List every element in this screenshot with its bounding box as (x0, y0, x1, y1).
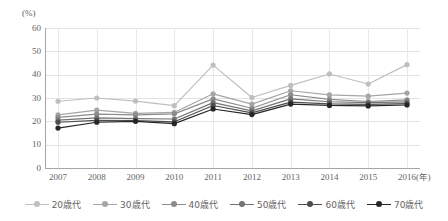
data-point (55, 99, 60, 104)
data-point (249, 112, 254, 117)
legend-item-70歳代[interactable]: 70歳代 (367, 198, 423, 211)
data-point (249, 95, 254, 100)
line-chart: (%) 6050403020100 2007200820092010201120… (0, 0, 448, 221)
legend-item-60歳代[interactable]: 60歳代 (298, 198, 354, 211)
legend-item-label: 50歳代 (257, 198, 286, 211)
legend-marker-icon (367, 200, 391, 209)
series-line (58, 104, 407, 128)
data-point (133, 119, 138, 124)
legend-item-30歳代[interactable]: 30歳代 (93, 198, 149, 211)
legend-marker-icon (298, 200, 322, 209)
data-point (366, 81, 371, 86)
chart-legend: 20歳代30歳代40歳代50歳代60歳代70歳代 (0, 193, 448, 215)
legend-item-label: 60歳代 (325, 198, 354, 211)
legend-item-20歳代[interactable]: 20歳代 (25, 198, 81, 211)
data-point (55, 120, 60, 125)
legend-item-label: 70歳代 (394, 198, 423, 211)
legend-marker-icon (25, 200, 49, 209)
data-point (327, 71, 332, 76)
series-layer (0, 0, 448, 221)
legend-item-label: 30歳代 (120, 198, 149, 211)
data-point (288, 83, 293, 88)
data-point (55, 126, 60, 131)
legend-item-label: 20歳代 (52, 198, 81, 211)
data-point (327, 103, 332, 108)
legend-item-label: 40歳代 (189, 198, 218, 211)
data-point (327, 92, 332, 97)
legend-marker-icon (162, 200, 186, 209)
data-point (94, 120, 99, 125)
data-point (366, 103, 371, 108)
data-point (172, 111, 177, 116)
data-point (366, 94, 371, 99)
data-point (211, 106, 216, 111)
data-point (94, 95, 99, 100)
data-point (172, 121, 177, 126)
data-point (404, 62, 409, 67)
data-point (211, 91, 216, 96)
data-point (404, 102, 409, 107)
series-6 (55, 101, 409, 130)
legend-marker-icon (93, 200, 117, 209)
legend-item-40歳代[interactable]: 40歳代 (162, 198, 218, 211)
data-point (172, 103, 177, 108)
data-point (404, 91, 409, 96)
legend-marker-icon (230, 200, 254, 209)
legend-item-50歳代[interactable]: 50歳代 (230, 198, 286, 211)
data-point (211, 63, 216, 68)
data-point (133, 98, 138, 103)
data-point (288, 101, 293, 106)
